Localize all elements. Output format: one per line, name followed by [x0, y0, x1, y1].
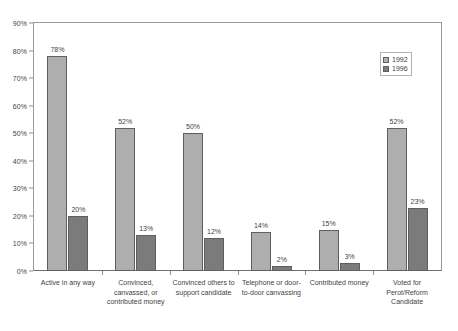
bar-1992-6: 52% — [387, 128, 407, 271]
category-label-2: Convinced,canvassed, orcontributed money — [102, 278, 170, 307]
category-separator-tick — [305, 271, 306, 275]
bar-value-label: 50% — [186, 123, 200, 130]
bar-1996-1: 20% — [68, 216, 88, 271]
bar-1996-5: 3% — [340, 263, 360, 271]
category-label-4: Telephone or door-to-door canvassing — [238, 278, 306, 297]
bar-group: 78%20% — [34, 23, 102, 271]
category-label-line: to-door canvassing — [238, 288, 306, 298]
bar-value-label: 52% — [118, 118, 132, 125]
y-axis-tick-label: 70% — [13, 75, 27, 82]
bar-1992-4: 14% — [251, 232, 271, 271]
bar-group: 50%12% — [170, 23, 238, 271]
bar-1992-2: 52% — [115, 128, 135, 271]
category-label-line: support candidate — [170, 288, 238, 298]
bar-group: 52%13% — [102, 23, 170, 271]
y-axis-tick-label: 50% — [13, 130, 27, 137]
bar-group: 14%2% — [238, 23, 306, 271]
bar-1992-3: 50% — [183, 133, 203, 271]
category-label-1: Active in any way — [34, 278, 102, 288]
y-axis-tick-label: 0% — [17, 268, 27, 275]
y-axis-tick-label: 40% — [13, 157, 27, 164]
bar-group: 15%3% — [305, 23, 373, 271]
bar-1996-6: 23% — [408, 208, 428, 271]
category-label-line: canvassed, or — [102, 288, 170, 298]
bar-value-label: 15% — [322, 220, 336, 227]
bar-value-label: 13% — [139, 225, 153, 232]
bar-value-label: 2% — [277, 256, 287, 263]
category-tick-marks — [34, 271, 441, 276]
legend-label: 1996 — [392, 65, 408, 72]
category-separator-tick — [373, 271, 374, 275]
category-label-line: Voted for — [373, 278, 441, 288]
category-label-line: Convinced others to — [170, 278, 238, 288]
y-axis-tick-label: 20% — [13, 212, 27, 219]
y-axis-tick-label: 10% — [13, 240, 27, 247]
category-label-5: Contributed money — [305, 278, 373, 288]
bar-value-label: 78% — [50, 46, 64, 53]
bar-value-label: 12% — [207, 228, 221, 235]
legend-item-1996: 1996 — [383, 64, 408, 73]
x-axis-category-labels: Active in any wayConvinced,canvassed, or… — [34, 278, 441, 328]
bar-value-label: 20% — [71, 206, 85, 213]
bar-value-label: 52% — [390, 118, 404, 125]
category-label-line: Active in any way — [34, 278, 102, 288]
category-label-6: Voted forPerot/ReformCandidate — [373, 278, 441, 307]
category-label-line: Perot/Reform — [373, 288, 441, 298]
y-axis-tick-label: 60% — [13, 102, 27, 109]
category-separator-tick — [238, 271, 239, 275]
category-separator-tick — [170, 271, 171, 275]
legend: 19921996 — [380, 52, 412, 76]
bar-1992-5: 15% — [319, 230, 339, 271]
category-label-line: Convinced, — [102, 278, 170, 288]
y-axis: 0%10%20%30%40%50%60%70%80%90% — [0, 22, 33, 272]
y-axis-tick-label: 30% — [13, 185, 27, 192]
y-axis-tick-label: 90% — [13, 20, 27, 27]
bar-value-label: 23% — [411, 198, 425, 205]
bar-1996-2: 13% — [136, 235, 156, 271]
legend-swatch-1996 — [383, 66, 389, 72]
category-label-line: contributed money — [102, 297, 170, 307]
y-axis-tick-label: 80% — [13, 47, 27, 54]
bar-value-label: 3% — [345, 253, 355, 260]
legend-swatch-1992 — [383, 57, 389, 63]
category-label-line: Contributed money — [305, 278, 373, 288]
legend-item-1992: 1992 — [383, 55, 408, 64]
category-separator-tick — [102, 271, 103, 275]
bar-chart: 0%10%20%30%40%50%60%70%80%90% 78%20%52%1… — [0, 0, 458, 331]
category-label-3: Convinced others tosupport candidate — [170, 278, 238, 297]
category-label-line: Telephone or door- — [238, 278, 306, 288]
bar-1992-1: 78% — [47, 56, 67, 271]
category-label-line: Candidate — [373, 297, 441, 307]
bar-1996-3: 12% — [204, 238, 224, 271]
legend-label: 1992 — [392, 56, 408, 63]
bar-value-label: 14% — [254, 222, 268, 229]
